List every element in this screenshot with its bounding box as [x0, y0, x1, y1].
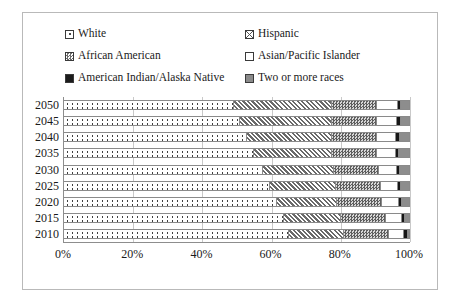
bar-segment-african-american-checker[interactable] [341, 213, 386, 223]
chart-figure: White Hispanic African American Asian/Pa… [22, 12, 438, 290]
legend-label-african-american: African American [78, 50, 161, 62]
y-axis-label-2020: 2020 [19, 197, 59, 207]
bar-2025[interactable]: 2025 [64, 181, 410, 191]
white-swatch-icon [65, 30, 74, 39]
bar-segment-asian-pacific-blank[interactable] [377, 132, 396, 142]
bar-segment-two-or-more-gray[interactable] [399, 148, 410, 158]
legend-item-hispanic: Hispanic [245, 25, 299, 43]
y-axis-label-2015: 2015 [19, 213, 59, 223]
bar-segment-hispanic-diagonal[interactable] [270, 181, 336, 191]
x-axis: 0%20%40%60%80%100% [63, 247, 409, 267]
bar-segment-white-dotted[interactable] [64, 148, 254, 158]
bar-2035[interactable]: 2035 [64, 148, 410, 158]
bar-segment-african-american-checker[interactable] [332, 148, 377, 158]
bar-segment-african-american-checker[interactable] [334, 165, 379, 175]
bar-segment-two-or-more-gray[interactable] [400, 132, 410, 142]
y-axis-label-2050: 2050 [19, 100, 59, 110]
bar-segment-asian-pacific-blank[interactable] [382, 197, 399, 207]
bar-segment-asian-pacific-blank[interactable] [389, 229, 404, 239]
y-axis-label-2040: 2040 [19, 132, 59, 142]
bar-segment-two-or-more-gray[interactable] [405, 213, 410, 223]
legend-item-white: White [65, 25, 106, 43]
bar-segment-white-dotted[interactable] [64, 181, 270, 191]
bar-2030[interactable]: 2030 [64, 165, 410, 175]
bar-segment-hispanic-diagonal[interactable] [284, 213, 341, 223]
y-axis-label-2045: 2045 [19, 116, 59, 126]
bar-segment-hispanic-diagonal[interactable] [277, 197, 338, 207]
bar-segment-african-american-checker[interactable] [344, 229, 389, 239]
legend-label-asian-pacific-islander: Asian/Pacific Islander [258, 50, 360, 62]
american-indian-alaska-native-swatch-icon [65, 74, 74, 83]
bar-segment-white-dotted[interactable] [64, 165, 263, 175]
asian-pacific-islander-swatch-icon [245, 52, 254, 61]
legend-label-hispanic: Hispanic [258, 28, 299, 40]
bar-segment-african-american-checker[interactable] [332, 132, 377, 142]
bar-segment-asian-pacific-blank[interactable] [381, 181, 398, 191]
bar-2010[interactable]: 2010 [64, 229, 410, 239]
bar-segment-hispanic-diagonal[interactable] [254, 148, 332, 158]
chart-legend: White Hispanic African American Asian/Pa… [23, 19, 437, 95]
y-axis-label-2030: 2030 [19, 165, 59, 175]
two-or-more-races-swatch-icon [245, 74, 254, 83]
bar-segment-hispanic-diagonal[interactable] [247, 132, 332, 142]
bar-segment-white-dotted[interactable] [64, 100, 234, 110]
legend-item-two-or-more-races: Two or more races [245, 69, 344, 87]
african-american-swatch-icon [65, 52, 74, 61]
legend-label-white: White [78, 28, 106, 40]
hispanic-swatch-icon [245, 30, 254, 39]
legend-label-two-or-more-races: Two or more races [258, 72, 344, 84]
bar-segment-hispanic-diagonal[interactable] [240, 116, 332, 126]
legend-label-american-indian-alaska-native: American Indian/Alaska Native [78, 72, 224, 84]
bar-segment-white-dotted[interactable] [64, 197, 277, 207]
x-axis-tick-0: 0% [55, 247, 71, 262]
y-axis-label-2025: 2025 [19, 181, 59, 191]
x-axis-tick-40: 40% [190, 247, 212, 262]
bar-segment-asian-pacific-blank[interactable] [377, 148, 396, 158]
y-axis-label-2010: 2010 [19, 229, 59, 239]
x-axis-tick-20: 20% [121, 247, 143, 262]
legend-item-asian-pacific-islander: Asian/Pacific Islander [245, 47, 360, 65]
bar-segment-african-american-checker[interactable] [336, 181, 381, 191]
bar-segment-hispanic-diagonal[interactable] [289, 229, 344, 239]
bar-segment-asian-pacific-blank[interactable] [379, 165, 397, 175]
gridline [410, 97, 411, 242]
legend-item-american-indian-alaska-native: American Indian/Alaska Native [65, 69, 224, 87]
x-axis-tick-100: 100% [395, 247, 423, 262]
bar-segment-white-dotted[interactable] [64, 229, 289, 239]
bar-segment-two-or-more-gray[interactable] [400, 165, 410, 175]
bar-segment-asian-pacific-blank[interactable] [386, 213, 402, 223]
bar-segment-white-dotted[interactable] [64, 116, 240, 126]
plot-area: 205020452040203520302025202020152010 [63, 97, 410, 243]
bar-segment-white-dotted[interactable] [64, 213, 284, 223]
bar-segment-two-or-more-gray[interactable] [401, 181, 410, 191]
bar-segment-african-american-checker[interactable] [332, 116, 377, 126]
bar-segment-african-american-checker[interactable] [337, 197, 382, 207]
bar-segment-white-dotted[interactable] [64, 132, 247, 142]
bar-segment-two-or-more-gray[interactable] [401, 116, 410, 126]
bar-2020[interactable]: 2020 [64, 197, 410, 207]
bar-segment-asian-pacific-blank[interactable] [377, 116, 397, 126]
x-axis-tick-80: 80% [329, 247, 351, 262]
bar-segment-two-or-more-gray[interactable] [401, 100, 410, 110]
legend-item-african-american: African American [65, 47, 161, 65]
bar-segment-two-or-more-gray[interactable] [408, 229, 410, 239]
bar-segment-african-american-checker[interactable] [332, 100, 377, 110]
x-axis-tick-60: 60% [260, 247, 282, 262]
bar-segment-asian-pacific-blank[interactable] [377, 100, 398, 110]
bar-2015[interactable]: 2015 [64, 213, 410, 223]
y-axis-label-2035: 2035 [19, 148, 59, 158]
bar-2040[interactable]: 2040 [64, 132, 410, 142]
bar-segment-hispanic-diagonal[interactable] [263, 165, 334, 175]
bar-2045[interactable]: 2045 [64, 116, 410, 126]
bar-2050[interactable]: 2050 [64, 100, 410, 110]
bar-segment-hispanic-diagonal[interactable] [234, 100, 333, 110]
bar-segment-two-or-more-gray[interactable] [402, 197, 410, 207]
